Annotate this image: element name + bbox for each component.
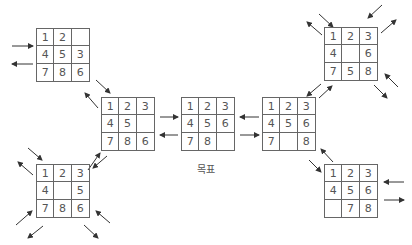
tile: 2	[54, 29, 71, 46]
arrow-down	[93, 156, 107, 168]
tile: 6	[360, 182, 377, 199]
tile: 1	[325, 165, 342, 182]
tile: 8	[360, 63, 377, 80]
tile: 4	[102, 115, 119, 132]
tile	[72, 29, 89, 46]
tile	[280, 133, 297, 150]
tile: 4	[325, 45, 342, 62]
tile: 7	[325, 63, 342, 80]
arrow-in	[96, 211, 110, 223]
arrow-down	[309, 160, 321, 172]
arrow-in	[385, 74, 398, 87]
tile: 2	[199, 98, 216, 115]
tile: 5	[280, 115, 297, 132]
tile: 5	[199, 115, 216, 132]
tile: 2	[54, 165, 71, 182]
state-top-left: 1 2 4 5 3 7 8 6	[36, 28, 90, 82]
tile: 3	[137, 98, 154, 115]
tile: 7	[102, 133, 119, 150]
tile: 4	[37, 182, 54, 199]
tile: 6	[72, 64, 89, 81]
tile: 6	[360, 45, 377, 62]
tile: 3	[360, 28, 377, 45]
tile: 2	[342, 28, 359, 45]
tile: 1	[182, 98, 199, 115]
arrow-out	[381, 20, 396, 33]
tile: 7	[342, 200, 359, 217]
tile: 3	[72, 165, 89, 182]
tile: 6	[72, 200, 89, 217]
state-goal: 1 2 3 4 5 6 7 8	[181, 97, 235, 151]
arrow-down	[307, 84, 321, 96]
tile: 7	[182, 133, 199, 150]
arrow-out	[96, 80, 110, 93]
tile: 4	[37, 46, 54, 63]
tile: 6	[137, 133, 154, 150]
arrow-up	[321, 149, 333, 162]
tile: 8	[54, 64, 71, 81]
tile: 2	[342, 165, 359, 182]
arrow-out	[28, 226, 43, 238]
state-left-middle: 1 2 3 4 5 7 8 6	[101, 97, 155, 151]
tile: 8	[199, 133, 216, 150]
tile: 5	[342, 63, 359, 80]
arrow-in	[368, 5, 382, 18]
tile	[217, 133, 234, 150]
tile: 5	[119, 115, 136, 132]
tile: 8	[54, 200, 71, 217]
tile: 1	[37, 29, 54, 46]
arrow-out	[18, 162, 33, 175]
arrow-out	[374, 85, 387, 98]
tile: 1	[37, 165, 54, 182]
goal-label: 목표	[197, 161, 215, 176]
state-bottom-left: 1 2 3 4 5 7 8 6	[36, 164, 90, 218]
arrow-in	[28, 148, 42, 160]
arrow-in	[16, 211, 32, 225]
tile: 3	[360, 165, 377, 182]
tile: 6	[298, 115, 315, 132]
tile: 4	[182, 115, 199, 132]
tile	[137, 115, 154, 132]
tile: 7	[263, 133, 280, 150]
tile: 3	[72, 46, 89, 63]
tile	[325, 200, 342, 217]
state-bottom-right: 1 2 3 4 5 6 7 8	[324, 164, 378, 218]
tile: 8	[298, 133, 315, 150]
tile: 2	[119, 98, 136, 115]
tile: 1	[263, 98, 280, 115]
tile: 1	[102, 98, 119, 115]
arrow-in	[85, 93, 98, 108]
tile: 6	[217, 115, 234, 132]
tile: 3	[298, 98, 315, 115]
tile: 7	[37, 200, 54, 217]
tile: 5	[342, 182, 359, 199]
tile: 8	[119, 133, 136, 150]
tile: 7	[37, 64, 54, 81]
tile	[342, 45, 359, 62]
tile: 4	[325, 182, 342, 199]
tile: 5	[72, 182, 89, 199]
state-top-right: 1 2 3 4 6 7 5 8	[324, 27, 378, 81]
tile: 1	[325, 28, 342, 45]
arrow-out	[84, 225, 98, 238]
tile: 8	[360, 200, 377, 217]
tile: 2	[280, 98, 297, 115]
puzzle-diagram: 1 2 4 5 3 7 8 6 1 2 3 4 5 7 8 6 1 2 3 4 …	[0, 0, 412, 245]
tile: 4	[263, 115, 280, 132]
tile: 3	[217, 98, 234, 115]
arrow-up	[319, 86, 332, 98]
arrow-in	[319, 14, 333, 27]
arrow-out	[307, 22, 322, 35]
tile: 5	[54, 46, 71, 63]
state-right-middle: 1 2 3 4 5 6 7 8	[262, 97, 316, 151]
tile	[54, 182, 71, 199]
